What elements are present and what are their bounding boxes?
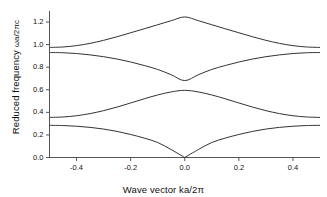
- band-curve-band-4: [50, 17, 321, 47]
- y-axis-ticks: [46, 22, 50, 157]
- band-curve-band-1: [50, 125, 321, 157]
- x-axis-title: Wave vector ka/2π: [0, 179, 327, 197]
- y-tick-label: 0.0: [33, 153, 43, 162]
- y-tick-label: 0.6: [33, 85, 43, 94]
- band-curve-band-2: [50, 90, 321, 117]
- x-tick-label: 0.0: [169, 163, 201, 172]
- y-tick-label: 1.0: [33, 40, 43, 49]
- x-tick-label: -0.2: [115, 163, 147, 172]
- y-axis-title-sub: ωa/2πc: [12, 20, 21, 48]
- y-tick-label: 1.2: [33, 17, 43, 26]
- y-axis-title-main: Reduced frequency: [10, 47, 21, 134]
- band-curves-group: [50, 17, 321, 158]
- band-diagram-figure: Reduced frequency ωa/2πc Wave vector ka/…: [0, 0, 327, 197]
- y-axis-title: Reduced frequency ωa/2πc: [5, 2, 23, 152]
- x-tick-label: -0.4: [61, 163, 93, 172]
- x-axis-title-sub: π: [197, 184, 204, 195]
- y-tick-label: 0.8: [33, 62, 43, 71]
- x-axis-title-main: Wave vector ka/2: [123, 184, 198, 195]
- band-curve-band-3: [50, 53, 321, 81]
- y-tick-label: 0.4: [33, 107, 43, 116]
- x-tick-label: 0.4: [277, 163, 309, 172]
- x-axis-ticks: [77, 158, 293, 162]
- y-tick-label: 0.2: [33, 130, 43, 139]
- x-tick-label: 0.2: [223, 163, 255, 172]
